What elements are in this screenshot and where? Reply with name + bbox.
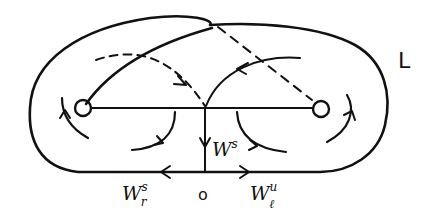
label-stable-vertical: Ws: [212, 137, 238, 160]
region-label-L: L: [398, 48, 411, 73]
swirl-right-outer: [327, 95, 351, 142]
outer-boundary-curve: [30, 16, 388, 172]
right-equilibrium-circle: [313, 101, 329, 117]
inner-arc-left-dashed: [96, 54, 205, 106]
label-stable-left: Wsr: [122, 180, 148, 209]
origin-label: o: [198, 185, 208, 204]
swirl-right-inner: [237, 112, 286, 152]
crossing-arc-solid: [86, 28, 212, 104]
inner-arc-left-arrow-icon: [174, 76, 186, 85]
swirl-right-inner-arrow-icon: [249, 140, 257, 150]
left-equilibrium-circle: [75, 100, 91, 116]
label-unstable-right: Wuℓ: [250, 180, 277, 211]
crossing-arc-dashed: [218, 27, 312, 100]
phase-portrait-diagram: L Ws Wsr o Wuℓ: [0, 0, 436, 224]
inner-arc-right-solid: [206, 58, 300, 106]
